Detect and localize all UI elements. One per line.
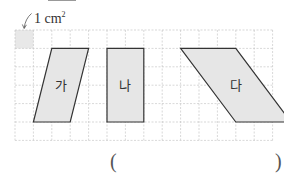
answer-close-paren: ) (275, 150, 282, 173)
unit-pointer-arrow-icon (22, 13, 31, 28)
shape-label: 가 (55, 78, 67, 93)
answer-blank[interactable] (122, 152, 272, 174)
unit-square (15, 30, 33, 48)
shape-label: 나 (119, 78, 131, 93)
answer-open-paren: ( (110, 150, 117, 173)
shape-label: 다 (230, 78, 242, 93)
